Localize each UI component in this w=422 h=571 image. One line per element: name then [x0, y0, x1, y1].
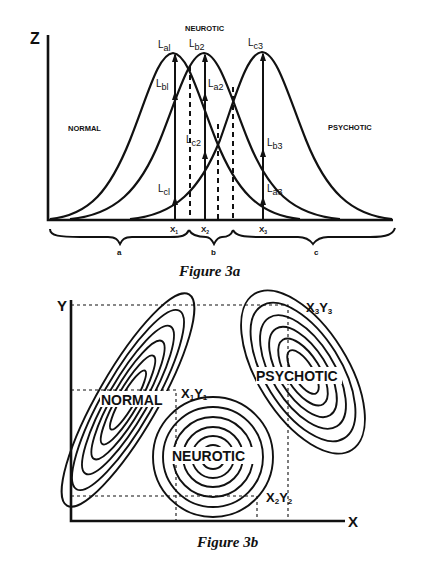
label-La3: La3 [267, 183, 283, 197]
x-axis-label: X [348, 513, 358, 530]
x3-label: X3 [259, 225, 267, 235]
neurotic-label: NEUROTIC [172, 448, 245, 464]
x2-label: X2 [201, 225, 209, 235]
label-La1: Lal [158, 39, 171, 53]
x2y2-reference-lines [71, 496, 257, 521]
label-Lb2: Lb2 [189, 38, 205, 52]
normal-label: NORMAL [68, 124, 101, 133]
xy-axes [71, 300, 345, 521]
x1-likelihood-arrows [172, 53, 178, 220]
x3-likelihood-arrows [260, 52, 266, 220]
x1y1-label: X1Y1 [181, 386, 208, 402]
figure-3b-caption: Figure 3b [196, 534, 259, 550]
region-b-brace [189, 230, 233, 244]
z-axis-label: Z [30, 30, 40, 47]
normal-label: NORMAL [101, 392, 163, 408]
figure-3a: Z NORMAL NEURO [30, 24, 395, 279]
region-c-brace [233, 228, 395, 244]
region-a-label: a [117, 248, 122, 257]
figure-3a-caption: Figure 3a [178, 263, 241, 279]
psychotic-label: PSYCHOTIC [328, 123, 372, 132]
label-La2: La2 [208, 78, 224, 92]
x1-label: X1 [170, 225, 178, 235]
figure-canvas: Z NORMAL NEURO [0, 0, 422, 571]
region-c-label: c [314, 248, 319, 257]
y-axis-label: Y [57, 297, 67, 314]
region-b-label: b [211, 248, 216, 257]
psychotic-label: PSYCHOTIC [256, 368, 338, 384]
label-Lc2: Lc2 [186, 134, 201, 148]
label-Lb1: Lbl [156, 78, 169, 92]
figure-3b: NORMAL NEUROTIC PSYCHOTIC Y X X1Y1 X2Y2 … [41, 270, 390, 550]
neurotic-label: NEUROTIC [185, 24, 225, 33]
x3y3-label: X3Y3 [306, 300, 333, 316]
x2y2-label: X2Y2 [266, 490, 293, 506]
label-Lc1: Lcl [158, 183, 170, 197]
label-Lc3: Lc3 [248, 37, 263, 51]
label-Lb3: Lb3 [267, 137, 283, 151]
region-a-brace [50, 229, 189, 244]
